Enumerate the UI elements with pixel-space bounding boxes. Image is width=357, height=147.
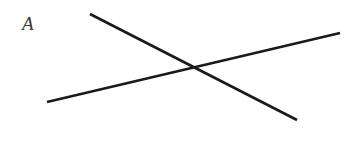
intersecting-lines-graphic bbox=[0, 0, 357, 147]
ascending-line bbox=[47, 33, 340, 102]
figure-canvas: A bbox=[0, 0, 357, 147]
